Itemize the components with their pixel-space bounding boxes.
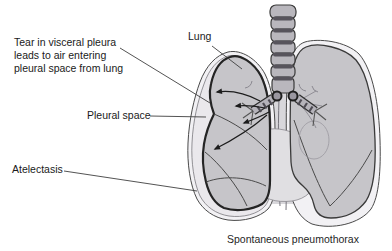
label-lung: Lung — [188, 30, 211, 43]
trachea — [270, 5, 296, 93]
label-pleural-space: Pleural space — [87, 109, 151, 122]
label-tear-visceral-pleura: Tear in visceral pleura leads to air ent… — [14, 36, 144, 75]
left-bronchus-ring — [273, 92, 282, 101]
figure-caption: Spontaneous pneumothorax — [227, 233, 359, 245]
left-lung-collapsed — [203, 56, 270, 210]
right-bronchus-ring — [289, 92, 298, 101]
figure-canvas: Tear in visceral pleura leads to air ent… — [0, 0, 392, 251]
leader-line-atelectasis — [64, 171, 197, 191]
label-atelectasis: Atelectasis — [12, 163, 63, 176]
